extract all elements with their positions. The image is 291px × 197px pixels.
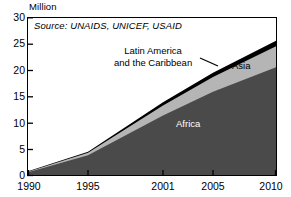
y-tick-20: 20 <box>1 65 25 75</box>
y-tick-10: 10 <box>1 118 25 128</box>
x-tick-2001: 2001 <box>143 180 183 192</box>
series-label-asia: Asia <box>232 60 250 71</box>
source-note: Source: UNAIDS, UNICEF, USAID <box>34 20 182 31</box>
y-tick-15: 15 <box>1 91 25 101</box>
x-tick-2005: 2005 <box>193 180 233 192</box>
x-tick-1995: 1995 <box>68 180 108 192</box>
y-tick-5: 5 <box>1 144 25 154</box>
series-label-lac-line1: Latin America <box>114 45 192 57</box>
x-tick-2010: 2010 <box>251 180 291 192</box>
stacked-area-chart: Million <box>0 0 291 197</box>
y-axis-labels: 30 25 20 15 10 5 0 <box>0 0 25 197</box>
y-tick-25: 25 <box>1 38 25 48</box>
y-axis-ticks <box>27 18 33 176</box>
series-label-lac-line2: and the Caribbean <box>114 57 192 69</box>
series-label-africa: Africa <box>176 118 200 129</box>
series-label-latin-america-and-the-caribbean: Latin America and the Caribbean <box>114 45 192 69</box>
x-tick-1990: 1990 <box>9 180 49 192</box>
latin-america-leader-line <box>200 58 218 66</box>
y-tick-30: 30 <box>1 12 25 22</box>
y-tick-0: 0 <box>1 170 25 180</box>
